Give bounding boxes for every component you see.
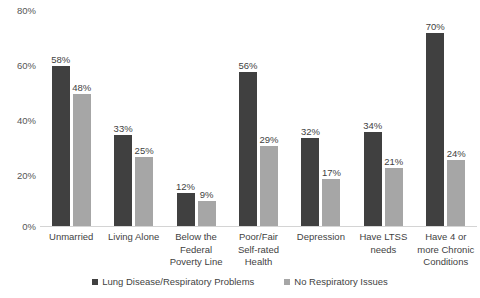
- y-axis-tick: 60%: [17, 61, 36, 71]
- plot-area: 58% 48% 33% 25%: [40, 6, 477, 227]
- y-axis-tick: 0%: [22, 222, 36, 232]
- category-label: Have 4 or more Chronic Conditions: [415, 231, 477, 269]
- bar-series-lung-disease[interactable]: [364, 132, 382, 226]
- bar-value-label: 33%: [114, 123, 133, 134]
- bar-value-label: 48%: [72, 82, 91, 93]
- bar-wrapper: 12%: [177, 6, 195, 226]
- legend-label: No Respiratory Issues: [294, 276, 387, 287]
- bar-series-no-respiratory[interactable]: [322, 179, 340, 226]
- bar-value-label: 17%: [322, 167, 341, 178]
- y-axis-tick: 80%: [17, 6, 36, 16]
- legend-swatch-icon: [92, 279, 98, 285]
- bar-group: 32% 17%: [290, 6, 352, 226]
- bar-value-label: 29%: [259, 134, 278, 145]
- bar-chart: 80% 60% 40% 20% 0% 58% 48% 33%: [0, 0, 480, 298]
- category-label: Living Alone: [102, 231, 164, 269]
- legend-label: Lung Disease/Respiratory Problems: [102, 276, 254, 287]
- bar-series-lung-disease[interactable]: [426, 33, 444, 226]
- bar-value-label: 32%: [301, 126, 320, 137]
- y-axis-tick: 40%: [17, 116, 36, 126]
- chart-legend: Lung Disease/Respiratory Problems No Res…: [0, 276, 480, 287]
- y-axis: 80% 60% 40% 20% 0%: [0, 0, 40, 232]
- bar-value-label: 34%: [363, 120, 382, 131]
- bar-group: 58% 48%: [40, 6, 102, 226]
- bar-wrapper: 24%: [447, 6, 465, 226]
- bar-value-label: 12%: [176, 181, 195, 192]
- legend-swatch-icon: [284, 279, 290, 285]
- category-label: Depression: [290, 231, 352, 269]
- x-axis-category-labels: Unmarried Living Alone Below the Federal…: [40, 231, 477, 269]
- legend-item-no-respiratory[interactable]: No Respiratory Issues: [284, 276, 387, 287]
- x-axis-line: [40, 226, 477, 227]
- legend-item-lung-disease[interactable]: Lung Disease/Respiratory Problems: [92, 276, 254, 287]
- bar-wrapper: 58%: [52, 6, 70, 226]
- bar-value-label: 70%: [426, 21, 445, 32]
- y-axis-tick: 20%: [17, 171, 36, 181]
- clipped-caption-remnant: [6, 290, 426, 296]
- bar-series-no-respiratory[interactable]: [447, 160, 465, 226]
- bar-group: 70% 24%: [415, 6, 477, 226]
- bar-wrapper: 48%: [73, 6, 91, 226]
- category-label: Below the Federal Poverty Line: [165, 231, 227, 269]
- bar-value-label: 9%: [200, 189, 214, 200]
- bar-value-label: 25%: [135, 145, 154, 156]
- bar-wrapper: 32%: [301, 6, 319, 226]
- bar-group: 56% 29%: [227, 6, 289, 226]
- bar-series-lung-disease[interactable]: [177, 193, 195, 226]
- bar-series-lung-disease[interactable]: [301, 138, 319, 226]
- category-label: Poor/Fair Self-rated Health: [227, 231, 289, 269]
- bar-series-lung-disease[interactable]: [52, 66, 70, 226]
- bar-wrapper: 29%: [260, 6, 278, 226]
- bar-wrapper: 25%: [135, 6, 153, 226]
- bar-wrapper: 33%: [114, 6, 132, 226]
- bar-series-lung-disease[interactable]: [114, 135, 132, 226]
- bar-wrapper: 9%: [198, 6, 216, 226]
- bar-wrapper: 70%: [426, 6, 444, 226]
- bar-wrapper: 34%: [364, 6, 382, 226]
- bar-series-no-respiratory[interactable]: [385, 168, 403, 226]
- bar-series-no-respiratory[interactable]: [73, 94, 91, 226]
- category-label: Unmarried: [40, 231, 102, 269]
- bar-value-label: 24%: [447, 148, 466, 159]
- bar-group: 33% 25%: [102, 6, 164, 226]
- bar-value-label: 58%: [51, 54, 70, 65]
- bar-wrapper: 17%: [322, 6, 340, 226]
- bar-wrapper: 56%: [239, 6, 257, 226]
- category-label: Have LTSS needs: [352, 231, 414, 269]
- bar-series-no-respiratory[interactable]: [135, 157, 153, 226]
- bar-wrapper: 21%: [385, 6, 403, 226]
- bar-group: 12% 9%: [165, 6, 227, 226]
- bar-value-label: 21%: [384, 156, 403, 167]
- bar-value-label: 56%: [238, 60, 257, 71]
- bar-groups: 58% 48% 33% 25%: [40, 6, 477, 226]
- bar-series-no-respiratory[interactable]: [198, 201, 216, 226]
- bar-series-no-respiratory[interactable]: [260, 146, 278, 226]
- bar-series-lung-disease[interactable]: [239, 72, 257, 226]
- bar-group: 34% 21%: [352, 6, 414, 226]
